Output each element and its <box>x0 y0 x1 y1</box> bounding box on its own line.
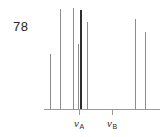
spectrum-line <box>87 22 88 109</box>
figure-panel: 78 νAνB <box>0 0 168 137</box>
axis-tick-nu-B <box>112 109 113 115</box>
baseline-axis <box>44 109 160 110</box>
spectrum-line <box>50 54 51 109</box>
axis-tick-nu-A <box>79 109 80 115</box>
spectrum-line <box>78 44 79 109</box>
axis-label-nu-B: νB <box>107 118 117 129</box>
spectrum-line <box>135 19 136 109</box>
axis-label-nu-A: νA <box>74 118 84 129</box>
axis-label-subscript: B <box>112 123 117 130</box>
spectrum-line <box>73 8 74 109</box>
spectrum-plot: νAνB <box>0 0 168 137</box>
axis-label-subscript: A <box>79 123 84 130</box>
spectrum-line <box>60 9 61 109</box>
spectrum-line <box>145 32 146 109</box>
spectrum-line <box>80 10 82 109</box>
